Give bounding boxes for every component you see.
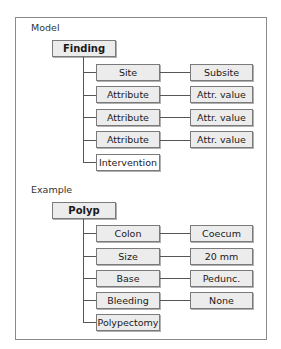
example-node-base: Base <box>96 270 160 287</box>
model-branch-line <box>83 117 96 118</box>
model-branch-line <box>83 72 96 73</box>
model-link-line <box>160 95 190 96</box>
model-link-line <box>160 140 190 141</box>
model-value-attr-2: Attr. value <box>190 109 253 126</box>
model-node-attribute-1: Attribute <box>96 86 160 103</box>
example-value-bleeding: None <box>190 292 253 309</box>
model-link-line <box>160 117 190 118</box>
example-branch-line <box>83 233 96 234</box>
example-branch-line <box>83 278 96 279</box>
model-node-intervention: Intervention <box>96 154 160 171</box>
model-branch-line <box>83 162 96 163</box>
example-section-label: Example <box>31 184 72 195</box>
model-branch-line <box>83 95 96 96</box>
example-link-line <box>160 278 190 279</box>
example-branch-line <box>83 300 96 301</box>
example-node-polypectomy: Polypectomy <box>96 314 160 331</box>
model-root-box: Finding <box>52 40 116 57</box>
example-node-colon: Colon <box>96 225 160 242</box>
model-branch-line <box>83 140 96 141</box>
example-link-line <box>160 256 190 257</box>
example-trunk-line <box>83 219 84 323</box>
model-node-attribute-2: Attribute <box>96 109 160 126</box>
example-branch-line <box>83 256 96 257</box>
model-value-attr-3: Attr. value <box>190 131 253 148</box>
example-link-line <box>160 300 190 301</box>
example-branch-line <box>83 322 96 323</box>
example-root-box: Polyp <box>52 202 116 219</box>
example-node-bleeding: Bleeding <box>96 292 160 309</box>
model-link-line <box>160 72 190 73</box>
model-node-attribute-3: Attribute <box>96 131 160 148</box>
model-value-subsite: Subsite <box>190 64 253 81</box>
model-node-site: Site <box>96 64 160 81</box>
example-value-coecum: Coecum <box>190 225 253 242</box>
example-link-line <box>160 233 190 234</box>
example-value-size: 20 mm <box>190 248 253 265</box>
example-value-base: Pedunc. <box>190 270 253 287</box>
model-value-attr-1: Attr. value <box>190 86 253 103</box>
model-section-label: Model <box>31 22 60 33</box>
example-node-size: Size <box>96 248 160 265</box>
